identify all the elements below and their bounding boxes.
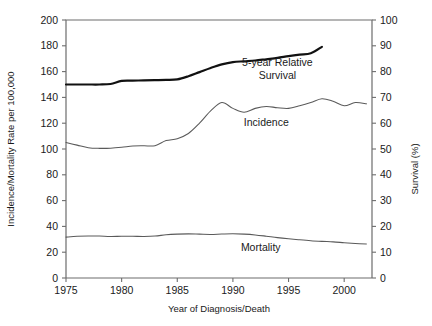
x-axis-tick-label: 1980 xyxy=(110,284,134,296)
y2-axis-tick-label: 0 xyxy=(380,272,386,284)
x-axis-tick-label: 1975 xyxy=(54,284,78,296)
y-axis-tick-label: 200 xyxy=(40,14,58,26)
y-axis-tick-label: 0 xyxy=(52,272,58,284)
y2-axis-tick-label: 30 xyxy=(380,194,392,206)
y2-axis-tick-label: 40 xyxy=(380,168,392,180)
chart-canvas: 0204060801001201401601802000102030405060… xyxy=(0,0,432,326)
y-axis-tick-label: 160 xyxy=(40,65,58,77)
x-axis-tick-label: 2000 xyxy=(333,284,357,296)
y2-axis-tick-label: 50 xyxy=(380,143,392,155)
series-label-incidence: Incidence xyxy=(244,116,289,128)
y-axis-tick-label: 40 xyxy=(46,220,58,232)
y2-axis-tick-label: 80 xyxy=(380,65,392,77)
x-axis-title: Year of Diagnosis/Death xyxy=(168,303,270,314)
y2-axis-title: Survival (%) xyxy=(409,143,420,194)
y-axis-tick-label: 120 xyxy=(40,117,58,129)
survival-incidence-mortality-chart: 0204060801001201401601802000102030405060… xyxy=(0,0,432,326)
y-axis-tick-label: 180 xyxy=(40,39,58,51)
y2-axis-tick-label: 10 xyxy=(380,246,392,258)
y-axis-title: Incidence/Mortality Rate per 100,000 xyxy=(5,71,16,226)
y2-axis-tick-label: 60 xyxy=(380,117,392,129)
y2-axis-tick-label: 100 xyxy=(380,14,398,26)
series-line-mortality xyxy=(66,234,366,244)
series-label-mortality: Mortality xyxy=(241,241,281,253)
series-label-5-year-relative-survival: 5-year Relative xyxy=(242,56,313,68)
series-line-incidence xyxy=(66,99,366,149)
y2-axis-tick-label: 70 xyxy=(380,91,392,103)
plot-frame xyxy=(66,20,372,278)
y-axis-tick-label: 20 xyxy=(46,246,58,258)
series-label-5-year-relative-survival: Survival xyxy=(259,69,296,81)
y-axis-tick-label: 60 xyxy=(46,194,58,206)
y2-axis-tick-label: 20 xyxy=(380,220,392,232)
x-axis-tick-label: 1985 xyxy=(166,284,190,296)
y-axis-tick-label: 140 xyxy=(40,91,58,103)
y-axis-tick-label: 80 xyxy=(46,168,58,180)
y-axis-tick-label: 100 xyxy=(40,143,58,155)
y2-axis-tick-label: 90 xyxy=(380,39,392,51)
x-axis-tick-label: 1990 xyxy=(221,284,245,296)
x-axis-tick-label: 1995 xyxy=(277,284,301,296)
